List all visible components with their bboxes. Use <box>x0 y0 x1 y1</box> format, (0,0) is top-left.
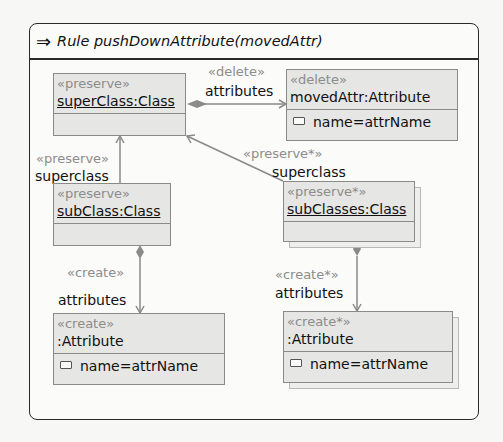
edge-stereotype: «preserve*» <box>243 146 323 162</box>
node-attributes <box>54 114 185 132</box>
edge-role: superclass <box>272 164 346 180</box>
attribute-icon <box>60 361 72 369</box>
attribute-icon <box>293 117 305 125</box>
edge-stereotype: «create*» <box>275 267 339 283</box>
edge-role: attributes <box>205 83 273 99</box>
node-stereotype: «preserve*» <box>287 184 411 200</box>
node-subclasses[interactable]: «preserve*» subClasses:Class <box>283 181 415 242</box>
node-stereotype: «preserve» <box>57 186 167 202</box>
attribute-text: name=attrName <box>80 358 198 374</box>
node-stereotype: «preserve» <box>57 76 182 92</box>
composition-diamond-icon <box>136 245 144 259</box>
node-create-multi-attribute[interactable]: «create*» :Attribute name=attrName <box>283 311 453 383</box>
attribute-text: name=attrName <box>313 114 431 130</box>
attribute-icon <box>290 359 302 367</box>
composition-diamond-icon <box>187 100 207 108</box>
node-name: :Attribute <box>287 330 449 349</box>
attribute-text: name=attrName <box>310 356 428 372</box>
node-superclass[interactable]: «preserve» superClass:Class <box>53 73 186 136</box>
node-stereotype: «create*» <box>287 314 449 330</box>
node-name: subClass:Class <box>57 202 167 221</box>
node-attributes <box>54 224 170 242</box>
node-name: subClasses:Class <box>287 200 411 219</box>
edge-role: attributes <box>275 285 343 301</box>
edge-stereotype: «create» <box>67 265 124 281</box>
node-moved-attr[interactable]: «delete» movedAttr:Attribute name=attrNa… <box>286 69 458 141</box>
edge-stereotype: «delete» <box>208 64 265 80</box>
edge-role: superclass <box>35 168 109 184</box>
node-name: movedAttr:Attribute <box>290 88 454 107</box>
edge-role: attributes <box>58 292 126 308</box>
node-attribute-row[interactable]: name=attrName <box>287 110 457 134</box>
node-attributes <box>284 222 414 238</box>
edge-stereotype: «preserve» <box>36 151 109 167</box>
node-stereotype: «delete» <box>290 72 454 88</box>
node-attribute-row[interactable]: name=attrName <box>54 354 224 378</box>
node-attribute-row[interactable]: name=attrName <box>284 352 452 376</box>
node-create-attribute[interactable]: «create» :Attribute name=attrName <box>53 313 225 385</box>
node-stereotype: «create» <box>57 316 221 332</box>
node-name: :Attribute <box>57 332 221 351</box>
node-subclass[interactable]: «preserve» subClass:Class <box>53 183 171 246</box>
node-name: superClass:Class <box>57 92 182 111</box>
